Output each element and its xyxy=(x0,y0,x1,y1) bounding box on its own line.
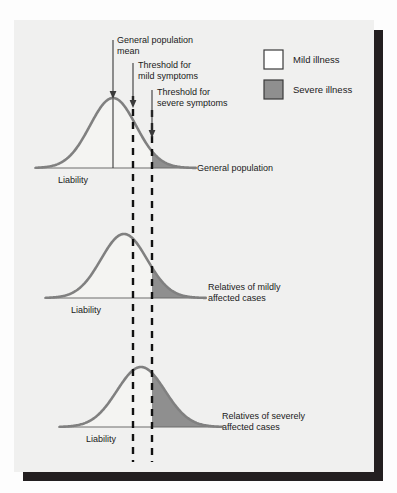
panel-title-line2: affected cases xyxy=(222,422,280,432)
panel-title-line2: affected cases xyxy=(208,293,266,303)
panel-shadow-bottom xyxy=(23,472,383,481)
axis-label-liability: Liability xyxy=(86,434,117,444)
annotation-label-line1: Threshold for xyxy=(138,60,191,70)
legend-label: Severe illness xyxy=(293,84,352,95)
figure-stage: General population mean Threshold for mi… xyxy=(0,0,397,493)
square-swatch-icon xyxy=(264,50,283,69)
panel-caption-general-population: General population xyxy=(197,163,273,173)
annotation-label-line2: severe symptoms xyxy=(157,98,228,108)
annotation-label-line2: mean xyxy=(117,46,140,56)
annotation-label-line2: mild symptoms xyxy=(138,71,199,81)
panel-title-line1: Relatives of severely xyxy=(222,411,306,421)
panel-title-line1: General population xyxy=(197,163,273,173)
liability-threshold-figure: General population mean Threshold for mi… xyxy=(0,0,397,493)
legend-label: Mild illness xyxy=(293,54,340,65)
panel-shadow-right xyxy=(374,30,383,480)
annotation-label-line1: General population xyxy=(117,35,193,45)
axis-label-liability: Liability xyxy=(58,175,89,185)
axis-label-liability: Liability xyxy=(71,305,102,315)
panel-title-line1: Relatives of mildly xyxy=(208,282,281,292)
annotation-label-line1: Threshold for xyxy=(157,87,210,97)
square-swatch-icon xyxy=(264,80,283,99)
